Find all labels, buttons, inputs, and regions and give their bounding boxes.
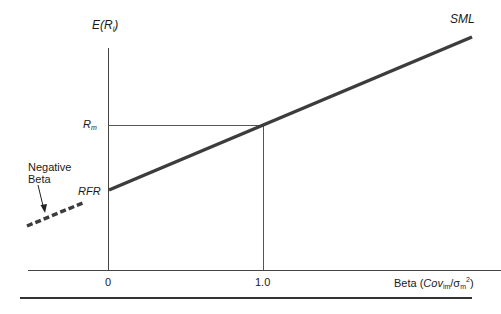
x-axis-label: Beta (Covim/σm2) <box>394 276 474 290</box>
x-tick-1: 1.0 <box>255 276 270 288</box>
negative-beta-line2: Beta <box>28 173 71 185</box>
negative-beta-annotation: Negative Beta <box>28 161 71 185</box>
sml-line <box>109 37 472 190</box>
arrow-head-icon <box>41 204 48 213</box>
rm-tick-label: Rm <box>83 118 97 131</box>
x-tick-0: 0 <box>105 276 111 288</box>
negative-beta-line1: Negative <box>28 161 71 173</box>
y-axis-label: E(Ri) <box>92 18 118 32</box>
sml-label: SML <box>450 12 475 26</box>
negative-beta-dashed-line <box>27 202 85 226</box>
sml-chart <box>0 0 501 314</box>
rfr-tick-label: RFR <box>78 185 101 197</box>
